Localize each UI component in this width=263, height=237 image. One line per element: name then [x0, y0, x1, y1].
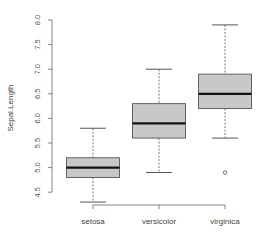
y-tick-label: 5.0 [33, 162, 42, 172]
y-tick-label: 6.0 [33, 113, 42, 123]
box-virginica [199, 25, 252, 174]
x-tick-label: setosa [81, 217, 105, 226]
box-setosa [67, 128, 120, 202]
outlier-point [223, 171, 227, 175]
y-axis-title: Sepal.Length [6, 84, 15, 131]
boxplot-chart: 4.55.05.56.06.57.07.58.0 setosaversicolo… [0, 0, 263, 237]
y-tick-label: 6.5 [33, 89, 42, 99]
x-axis: setosaversicolorvirginica [81, 205, 240, 226]
x-tick-label: virginica [210, 217, 240, 226]
y-tick-label: 4.5 [33, 187, 42, 197]
y-tick-label: 7.0 [33, 64, 42, 74]
y-tick-label: 5.5 [33, 138, 42, 148]
box-versicolor [133, 69, 186, 172]
y-tick-label: 8.0 [33, 15, 42, 25]
y-axis: 4.55.05.56.06.57.07.58.0 [33, 15, 52, 198]
boxes [67, 25, 252, 202]
x-tick-label: versicolor [142, 217, 177, 226]
y-tick-label: 7.5 [33, 39, 42, 49]
